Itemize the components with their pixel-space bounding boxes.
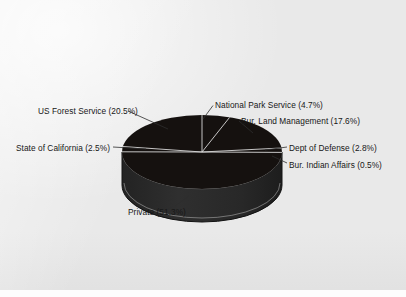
slice-label-private: Private (51.3%) [128, 207, 186, 217]
slice-label-national-park-service: National Park Service (4.7%) [215, 100, 323, 110]
slice-label-state-of-california: State of California (2.5%) [16, 143, 110, 153]
slice-label-bureau-land-management: Bur. Land Management (17.6%) [241, 116, 360, 126]
slice-label-bureau-indian-affairs: Bur. Indian Affairs (0.5%) [289, 160, 382, 170]
chart-page: National Park Service (4.7%) Bur. Land M… [0, 0, 406, 297]
slice-label-us-forest-service: US Forest Service (20.5%) [38, 106, 138, 116]
slice-label-dept-of-defense: Dept of Defense (2.8%) [289, 143, 377, 153]
